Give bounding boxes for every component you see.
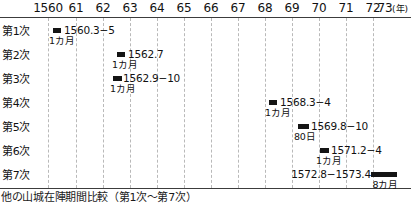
timeline-bar-2: [117, 52, 125, 57]
axis-tick-label: 73: [378, 1, 393, 15]
row-label-6: 第6次: [2, 145, 30, 159]
timeline-bar-7: [371, 172, 397, 177]
timeline-bar-1: [53, 28, 61, 33]
axis-tick-label: 69: [285, 1, 300, 15]
axis-tick-label: 62: [96, 1, 111, 15]
bar-duration-label-1: 1カ月: [49, 34, 74, 47]
x-axis-unit-label: (年): [392, 3, 408, 15]
chart-caption: 他の山城在陣期間比較（第1次〜第7次）: [1, 191, 196, 205]
bar-duration-label-2: 1カ月: [112, 58, 137, 71]
row-label-5: 第5次: [2, 121, 30, 135]
timeline-row: 第4次 1568.3−4 1カ月: [0, 95, 411, 119]
axis-tick-label: 64: [150, 1, 165, 15]
x-axis-header: 1560 61 62 63 64 65 66 67 68 69 70 71 72…: [0, 0, 411, 18]
timeline-bar-4: [269, 100, 277, 105]
axis-tick-label: 61: [69, 1, 84, 15]
timeline-row: 第2次 1562.7 1カ月: [0, 47, 411, 71]
timeline-row: 第5次 1569.8−10 80日: [0, 119, 411, 143]
axis-tick-label: 65: [177, 1, 192, 15]
row-label-4: 第4次: [2, 97, 30, 111]
axis-tick-label: 67: [231, 1, 246, 15]
axis-tick-label: 68: [258, 1, 273, 15]
timeline-bar-6: [320, 148, 329, 153]
row-label-7: 第7次: [2, 169, 30, 183]
timeline-row: 第6次 1571.2−4 1カ月: [0, 143, 411, 167]
timeline-row: 第7次 1572.8−1573.4 8カ月: [0, 167, 411, 191]
row-label-2: 第2次: [2, 49, 30, 63]
plot-area: 第1次 1560.3−5 1カ月 第2次 1562.7 1カ月 第3次 1562…: [0, 17, 411, 189]
bar-duration-label-4: 1カ月: [265, 106, 290, 119]
timeline-bar-3: [113, 76, 122, 81]
timeline-row: 第1次 1560.3−5 1カ月: [0, 23, 411, 47]
bar-duration-label-6: 1カ月: [316, 154, 341, 167]
bar-range-label-7: 1572.8−1573.4: [291, 167, 371, 181]
row-label-1: 第1次: [2, 25, 30, 39]
axis-top-rule: [0, 17, 411, 18]
bar-duration-label-3: 1カ月: [110, 82, 135, 95]
timeline-bar-5: [298, 124, 309, 129]
bar-range-label-5: 1569.8−10: [311, 119, 368, 133]
axis-tick-label: 66: [204, 1, 219, 15]
bar-duration-label-5: 80日: [294, 130, 316, 143]
timeline-row: 第3次 1562.9−10 1カ月: [0, 71, 411, 95]
axis-tick-label: 71: [339, 1, 354, 15]
row-label-3: 第3次: [2, 73, 30, 87]
axis-tick-label: 1560: [33, 1, 63, 15]
axis-tick-label: 70: [312, 1, 327, 15]
timeline-chart: 1560 61 62 63 64 65 66 67 68 69 70 71 72…: [0, 0, 411, 207]
axis-tick-label: 63: [123, 1, 138, 15]
bar-duration-label-7: 8カ月: [373, 178, 398, 191]
